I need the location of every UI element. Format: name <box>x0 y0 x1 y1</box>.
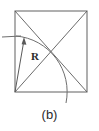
radius-arc <box>16 36 67 103</box>
figure-caption: (b) <box>0 107 99 123</box>
figure-container: R (b) <box>0 0 99 131</box>
radius-label: R <box>31 50 40 62</box>
radius-arrow-shaft <box>15 40 24 92</box>
arc-start-extension-line <box>2 36 21 37</box>
radius-arrow-head <box>22 37 27 45</box>
